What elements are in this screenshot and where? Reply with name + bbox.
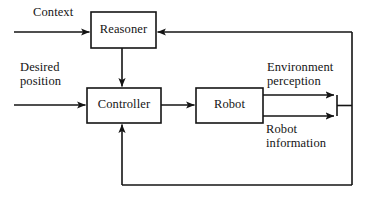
label-desired-position: Desired position [20, 61, 61, 88]
label-desired-line2: position [20, 75, 61, 89]
node-controller-label: Controller [87, 98, 161, 111]
label-environment-line2: perception [267, 75, 333, 89]
diagram-canvas [0, 0, 366, 203]
node-reasoner-label: Reasoner [91, 23, 156, 36]
label-robot-info-line1: Robot [266, 123, 326, 137]
label-desired-line1: Desired [20, 61, 61, 75]
label-environment-line1: Environment [267, 61, 333, 75]
label-environment-perception: Environment perception [267, 61, 333, 88]
label-robot-information: Robot information [266, 123, 326, 150]
label-robot-info-line2: information [266, 137, 326, 151]
node-robot-label: Robot [196, 98, 263, 111]
label-context: Context [33, 6, 73, 20]
block-diagram: Reasoner Controller Robot Context Desire… [0, 0, 366, 203]
